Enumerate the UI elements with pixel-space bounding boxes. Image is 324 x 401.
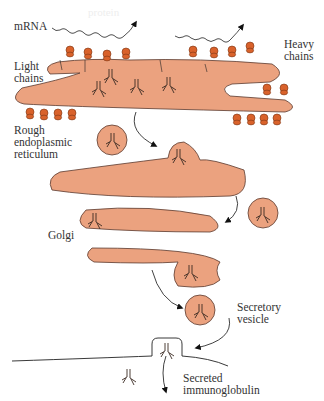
rough-er <box>15 59 292 112</box>
golgi-cisterna-3 <box>87 248 220 287</box>
golgi-vesicle <box>248 198 278 228</box>
faint-bleed-text: protein <box>88 6 119 18</box>
immunoglobulin-secretion-diagram <box>0 0 324 401</box>
label-golgi: Golgi <box>48 229 74 241</box>
mrna-strand-right <box>175 25 243 42</box>
er-transport-vesicle <box>97 125 127 155</box>
label-light-chains: Light chains <box>14 60 43 84</box>
secretory-vesicle <box>185 295 215 325</box>
ribosomes-on-mrna <box>66 42 254 61</box>
label-heavy-chains: Heavy chains <box>284 38 314 62</box>
plasma-membrane <box>12 338 228 366</box>
golgi-cisterna-2 <box>80 208 218 232</box>
golgi-cisterna-1 <box>50 142 245 197</box>
label-mrna: mRNA <box>14 20 47 32</box>
label-secretory-vesicle: Secretory vesicle <box>237 301 281 325</box>
label-rough-er: Rough endoplasmic reticulum <box>14 124 72 160</box>
mrna-strand-left <box>52 22 136 38</box>
label-secreted-immunoglobulin: Secreted immunoglobulin <box>183 372 260 396</box>
